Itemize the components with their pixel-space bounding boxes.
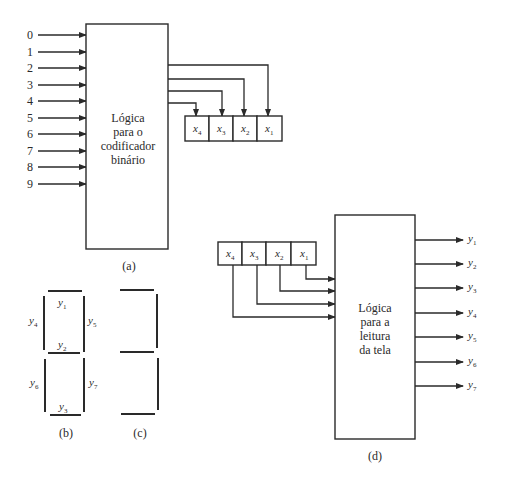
svg-text:binário: binário [111,153,145,167]
svg-text:Lógica: Lógica [111,111,145,125]
label-y3: y3 [58,400,68,415]
svg-text:y6: y6 [467,354,477,369]
input-label: 5 [27,111,33,125]
svg-text:para o: para o [113,125,143,139]
svg-text:y4: y4 [467,305,477,320]
encoder-output-lines [168,65,268,116]
figure-a: 0 1 2 3 4 5 6 7 8 9 Lógica para o codifi… [27,24,282,273]
input-label: 8 [27,160,33,174]
svg-text:Lógica: Lógica [358,301,392,315]
svg-text:y2: y2 [467,256,477,271]
svg-text:codificador: codificador [101,139,156,153]
input-label: 4 [27,94,33,108]
display-output-labels: y1 y2 y3 y4 y5 y6 y7 [467,232,477,393]
caption-d: (d) [368,449,382,463]
input-label: 0 [27,28,33,42]
label-y1: y1 [57,296,67,311]
svg-text:y1: y1 [467,232,477,247]
input-line-x1 [306,265,335,279]
display-output-lines [415,240,463,386]
input-label: 2 [27,61,33,75]
input-line-x2 [280,265,335,291]
figure-d: x4 x3 x2 x1 Lógica para a leitura da tel… [218,215,477,463]
diagram-canvas: 0 1 2 3 4 5 6 7 8 9 Lógica para o codifi… [0,0,505,489]
svg-text:y7: y7 [467,378,477,393]
input-label: 3 [27,78,33,92]
label-y5: y5 [87,314,97,329]
svg-text:y3: y3 [467,280,477,295]
caption-a: (a) [122,259,135,273]
figure-c: (c) [120,290,158,440]
label-y6: y6 [29,376,39,391]
input-label: 9 [27,177,33,191]
display-input-lines [233,265,335,317]
input-label: 7 [27,144,33,158]
input-labels: 0 1 2 3 4 5 6 7 8 9 [27,28,33,191]
label-y4: y4 [28,314,38,329]
svg-text:y5: y5 [467,329,477,344]
display-block-label: Lógica para a leitura da tela [358,301,392,357]
input-label: 6 [27,127,33,141]
register-d: x4 x3 x2 x1 [218,242,316,265]
input-lines [38,35,86,184]
input-line-x3 [257,265,335,304]
svg-text:da tela: da tela [359,343,391,357]
output-line-x4 [168,103,196,116]
output-line-x2 [168,79,244,116]
label-y2: y2 [57,338,67,353]
input-label: 1 [27,45,33,59]
svg-text:para a: para a [361,315,391,329]
caption-c: (c) [133,426,146,440]
caption-b: (b) [59,426,73,440]
label-y7: y7 [88,376,98,391]
register-a: x4 x3 x2 x1 [185,116,282,141]
svg-text:leitura: leitura [360,329,391,343]
figure-b: y1 y2 y3 y4 y5 y6 y7 (b) [28,291,98,440]
